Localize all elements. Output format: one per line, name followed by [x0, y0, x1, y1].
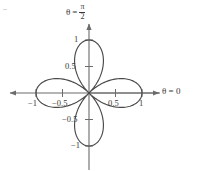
x-tick-label-pos-half: 0.5 — [108, 99, 119, 108]
fraction-denominator: 2 — [79, 13, 85, 21]
y-tick-label-neg-half: −0.5 — [62, 115, 77, 124]
y-tick-label-pos-half: 0.5 — [65, 62, 76, 71]
x-tick-label-pos-1: 1 — [139, 99, 143, 108]
theta-symbol-vertical: θ — [66, 8, 70, 17]
pi-over-two-fraction: π 2 — [79, 3, 85, 21]
x-tick-label-neg-half: −0.5 — [52, 99, 67, 108]
y-tick-label-pos-1: 1 — [74, 35, 78, 44]
equals-symbol-vertical: = — [72, 8, 77, 17]
x-tick-label-neg-1: −1 — [28, 99, 37, 108]
y-tick-label-neg-1: −1 — [71, 141, 80, 150]
polar-rose-figure: θ = π 2 θ = 0 −1 −0.5 0.5 1 1 0.5 −0.5 −… — [0, 0, 197, 171]
theta-vertical-axis-label: θ = π 2 — [66, 3, 85, 21]
fraction-numerator: π — [79, 3, 85, 11]
theta-horizontal-axis-label: θ = 0 — [162, 87, 180, 96]
